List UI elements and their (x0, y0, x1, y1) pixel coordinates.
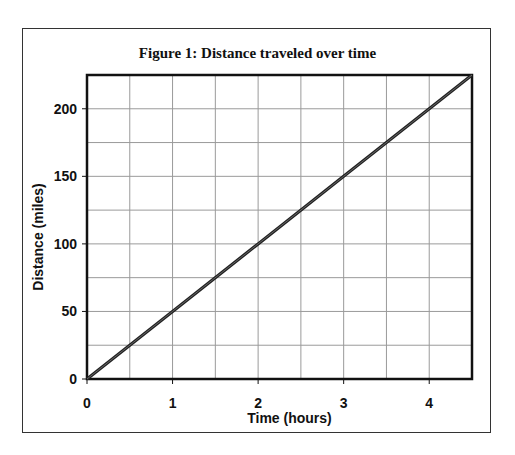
y-tick-label: 0 (69, 371, 77, 387)
x-tick-label: 3 (340, 395, 348, 411)
y-tick-label: 50 (61, 303, 77, 319)
y-tick-label: 200 (54, 101, 78, 117)
data-series (87, 75, 472, 379)
y-axis-label: Distance (miles) (30, 183, 46, 290)
y-tick-label: 150 (54, 168, 78, 184)
x-tick-label: 4 (425, 395, 433, 411)
x-tick-label: 2 (254, 395, 262, 411)
y-tick-label: 100 (54, 236, 78, 252)
x-tick-label: 0 (83, 395, 91, 411)
line-chart: 01234050100150200 Time (hours) Distance … (0, 0, 515, 455)
x-tick-label: 1 (169, 395, 177, 411)
x-axis-label: Time (hours) (247, 410, 332, 426)
